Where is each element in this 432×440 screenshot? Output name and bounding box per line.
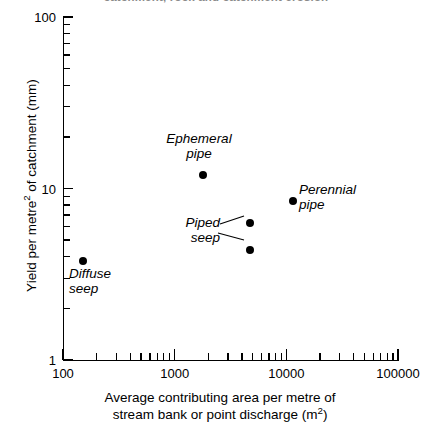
perennial-pipe-label-line1: Perennial xyxy=(299,182,356,197)
data-point-marker xyxy=(289,197,297,205)
x-axis-title-line2: stream bank or point discharge (m2) xyxy=(40,406,400,423)
y-axis-title: Yield per metre2 of catchment (mm) xyxy=(24,36,39,336)
x-tick-label: 100 xyxy=(52,366,74,381)
x-tick-minor xyxy=(169,353,170,360)
data-point-marker xyxy=(246,219,254,227)
y-tick-minor xyxy=(63,226,70,227)
ephemeral-pipe-label-line1: Ephemeral xyxy=(140,131,258,146)
x-tick-minor xyxy=(275,353,276,360)
x-tick-minor xyxy=(364,353,365,360)
x-tick-minor xyxy=(392,353,393,360)
y-tick-minor xyxy=(63,68,70,69)
x-tick-label: 1000 xyxy=(160,366,189,381)
x-tick-minor xyxy=(116,353,117,360)
x-tick-minor xyxy=(157,353,158,360)
x-axis-title-line2-pre: stream bank or point discharge (m xyxy=(113,407,318,422)
y-tick-major xyxy=(63,16,73,18)
x-tick-minor xyxy=(319,353,320,360)
y-tick-minor xyxy=(63,106,70,107)
x-axis-title-line2-post: ) xyxy=(323,407,328,422)
y-tick-minor xyxy=(63,256,70,257)
y-tick-minor xyxy=(63,239,70,240)
x-tick-minor xyxy=(339,353,340,360)
y-tick-major xyxy=(63,359,73,361)
y-tick-minor xyxy=(63,85,70,86)
y-tick-minor xyxy=(63,43,70,44)
y-axis-title-sup: 2 xyxy=(21,195,32,200)
x-tick-minor xyxy=(387,353,388,360)
y-tick-minor xyxy=(63,308,70,309)
y-axis-title-post: of catchment (mm) xyxy=(24,79,39,195)
x-tick-minor xyxy=(140,353,141,360)
perennial-pipe-label: Perennial pipe xyxy=(299,182,356,212)
x-axis-title-line1: Average contributing area per metre of xyxy=(40,389,400,406)
x-tick-minor xyxy=(130,353,131,360)
x-axis-title: Average contributing area per metre of s… xyxy=(40,389,400,423)
ephemeral-pipe-label: Ephemeral pipe xyxy=(140,131,258,161)
diffuse-seep-label: Diffuse seep xyxy=(69,266,111,296)
x-tick-label: 100000 xyxy=(376,366,419,381)
scatter-chart-figure: catchment, rock and catchment erosion 11… xyxy=(0,0,432,440)
x-tick-minor xyxy=(208,353,209,360)
y-tick-label: 100 xyxy=(12,10,56,25)
x-tick-minor xyxy=(227,353,228,360)
clipped-caption-remnant: catchment, rock and catchment erosion xyxy=(0,0,432,3)
x-tick-minor xyxy=(241,353,242,360)
y-axis-title-pre: Yield per metre xyxy=(24,201,39,292)
x-tick-minor xyxy=(380,353,381,360)
piped-seep-label: Piped seep xyxy=(120,215,220,245)
x-tick-minor xyxy=(373,353,374,360)
x-axis-line xyxy=(63,360,399,361)
diffuse-seep-label-line1: Diffuse xyxy=(69,266,111,281)
y-tick-minor xyxy=(63,204,70,205)
data-point-marker xyxy=(199,171,207,179)
x-tick-minor xyxy=(281,353,282,360)
data-point-marker xyxy=(246,246,254,254)
y-tick-label: 1 xyxy=(12,353,56,368)
x-tick-major xyxy=(286,349,288,360)
ephemeral-pipe-label-line2: pipe xyxy=(140,146,258,161)
x-tick-minor xyxy=(96,353,97,360)
x-tick-minor xyxy=(261,353,262,360)
x-tick-minor xyxy=(252,353,253,360)
x-tick-major xyxy=(174,349,176,360)
y-tick-minor xyxy=(63,33,70,34)
y-tick-minor xyxy=(63,136,70,137)
perennial-pipe-label-line2: pipe xyxy=(299,197,356,212)
x-tick-minor xyxy=(149,353,150,360)
piped-seep-label-line2: seep xyxy=(120,230,220,245)
data-point-marker xyxy=(79,257,87,265)
diffuse-seep-label-line2: seep xyxy=(69,281,111,296)
y-tick-minor xyxy=(63,54,70,55)
y-tick-minor xyxy=(63,214,70,215)
y-tick-minor xyxy=(63,196,70,197)
x-tick-minor xyxy=(163,353,164,360)
y-tick-minor xyxy=(63,24,70,25)
x-tick-minor xyxy=(353,353,354,360)
y-tick-major xyxy=(63,188,73,190)
piped-seep-label-line1: Piped xyxy=(120,215,220,230)
x-tick-minor xyxy=(268,353,269,360)
x-tick-label: 10000 xyxy=(268,366,304,381)
x-tick-major xyxy=(62,349,64,360)
x-tick-major xyxy=(397,349,399,360)
